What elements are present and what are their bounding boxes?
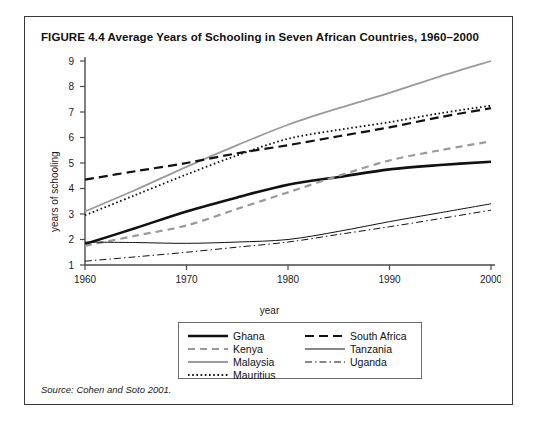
series-line-malaysia xyxy=(85,61,491,211)
legend-label: Uganda xyxy=(346,356,387,368)
y-tick-label: 2 xyxy=(68,234,74,245)
x-tick-label: 1990 xyxy=(378,274,401,285)
legend-swatch-south-africa xyxy=(304,330,346,342)
legend-column-left: GhanaKenyaMalaysiaMauritius xyxy=(187,329,276,381)
legend-label: Tanzania xyxy=(346,343,392,355)
legend-label: South Africa xyxy=(346,330,407,342)
legend-label: Ghana xyxy=(229,330,265,342)
y-tick-marks xyxy=(80,61,85,265)
plot-area: 123456789 19601970198019902000 xyxy=(39,53,501,303)
legend-label: Mauritius xyxy=(229,369,276,381)
legend-item[interactable]: Ghana xyxy=(187,329,276,342)
legend-swatch-ghana xyxy=(187,330,229,342)
x-tick-labels: 19601970198019902000 xyxy=(74,274,501,285)
x-axis-label: year xyxy=(25,305,514,316)
y-tick-label: 6 xyxy=(68,132,74,143)
legend-item[interactable]: Kenya xyxy=(187,342,276,355)
y-tick-label: 3 xyxy=(68,209,74,220)
figure-title: FIGURE 4.4 Average Years of Schooling in… xyxy=(41,31,479,43)
legend-item[interactable]: Mauritius xyxy=(187,368,276,381)
x-tick-marks xyxy=(85,265,491,270)
legend-item[interactable]: Uganda xyxy=(304,355,407,368)
series-line-kenya xyxy=(85,141,491,246)
legend-item[interactable]: Malaysia xyxy=(187,355,276,368)
y-tick-label: 1 xyxy=(68,260,74,271)
figure-card: FIGURE 4.4 Average Years of Schooling in… xyxy=(24,16,513,405)
x-tick-label: 1980 xyxy=(277,274,300,285)
y-tick-label: 9 xyxy=(68,56,74,67)
source-note: Source: Cohen and Soto 2001. xyxy=(41,384,171,395)
y-tick-label: 4 xyxy=(68,183,74,194)
y-tick-labels: 123456789 xyxy=(68,56,74,271)
x-tick-label: 1970 xyxy=(175,274,198,285)
y-tick-label: 7 xyxy=(68,107,74,118)
legend-label: Kenya xyxy=(229,343,263,355)
legend-label: Malaysia xyxy=(229,356,274,368)
x-tick-label: 1960 xyxy=(74,274,97,285)
line-chart: 123456789 19601970198019902000 xyxy=(39,53,501,303)
legend-column-right: South AfricaTanzaniaUganda xyxy=(304,329,407,368)
series-line-ghana xyxy=(85,162,491,244)
legend-item[interactable]: Tanzania xyxy=(304,342,407,355)
y-tick-label: 5 xyxy=(68,158,74,169)
x-tick-label: 2000 xyxy=(480,274,501,285)
legend-item[interactable]: South Africa xyxy=(304,329,407,342)
data-series-group xyxy=(85,61,491,261)
y-tick-label: 8 xyxy=(68,81,74,92)
series-line-mauritius xyxy=(85,106,491,216)
legend-swatch-kenya xyxy=(187,343,229,355)
legend-swatch-tanzania xyxy=(304,343,346,355)
legend-swatch-mauritius xyxy=(187,369,229,381)
series-line-uganda xyxy=(85,210,491,261)
legend-swatch-malaysia xyxy=(187,356,229,368)
legend-swatch-uganda xyxy=(304,356,346,368)
series-line-south-africa xyxy=(85,108,491,179)
legend: GhanaKenyaMalaysiaMauritius South Africa… xyxy=(178,322,422,379)
